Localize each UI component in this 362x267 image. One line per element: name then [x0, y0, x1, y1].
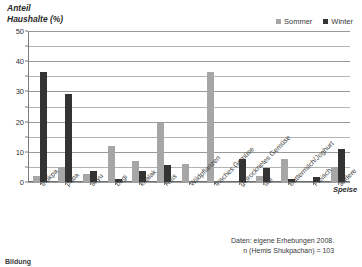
bar-group: [152, 31, 177, 182]
legend-item-label: Winter: [331, 17, 353, 26]
bar-sommer[interactable]: [157, 123, 164, 182]
y-tick-label: 20: [16, 117, 24, 126]
y-tick-label: 30: [16, 87, 24, 96]
figure-caption: Bildung: [5, 258, 31, 267]
bar-group: [177, 31, 202, 182]
bar-group: [53, 31, 78, 182]
chart-legend: SommerWinter: [276, 17, 353, 26]
y-tick-label: 40: [16, 57, 24, 66]
y-tick-label: 10: [16, 147, 24, 156]
bar-winter[interactable]: [65, 94, 72, 182]
legend-swatch-icon: [276, 19, 281, 24]
bar-group: [78, 31, 103, 182]
source-note: Daten: eigene Erhebungen 2008. n (Hemis …: [231, 236, 334, 255]
bar-sommer[interactable]: [331, 167, 338, 182]
bar-group: [127, 31, 152, 182]
source-note-line2: n (Hemis Shukpachan) = 103: [231, 246, 334, 256]
bar-groups: [28, 31, 350, 182]
y-tick-label: 50: [16, 27, 24, 36]
bar-group: [276, 31, 301, 182]
legend-item-winter[interactable]: Winter: [323, 17, 353, 26]
legend-item-sommer[interactable]: Sommer: [276, 17, 312, 26]
bar-group: [28, 31, 53, 182]
legend-swatch-icon: [323, 19, 328, 24]
bar-sommer[interactable]: [281, 159, 288, 182]
plot-area: 01020304050: [28, 31, 350, 182]
bar-group: [102, 31, 127, 182]
bar-sommer[interactable]: [132, 161, 139, 182]
bar-sommer[interactable]: [58, 167, 65, 182]
y-axis-title-line2: Haushalte (%): [7, 14, 63, 25]
bar-winter[interactable]: [40, 72, 47, 182]
bar-sommer[interactable]: [108, 146, 115, 182]
bar-sommer[interactable]: [182, 164, 189, 182]
legend-item-label: Sommer: [284, 17, 312, 26]
source-note-line1: Daten: eigene Erhebungen 2008.: [231, 237, 334, 244]
y-tick-label: 0: [20, 178, 24, 187]
y-axis-title-line1: Anteil: [7, 3, 63, 14]
x-axis-title: Speise: [333, 185, 357, 194]
y-axis-title: Anteil Haushalte (%): [7, 3, 63, 25]
bar-group: [325, 31, 350, 182]
